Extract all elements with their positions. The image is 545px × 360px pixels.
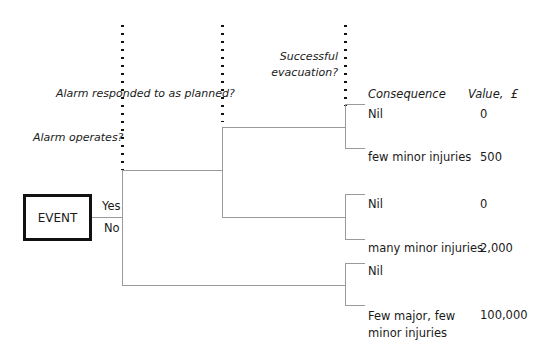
alarm-responded-no-branch bbox=[222, 217, 345, 218]
evacuation-node-1 bbox=[345, 104, 346, 149]
question-line-1: Successful bbox=[271, 49, 338, 65]
outcome-2-value: 500 bbox=[480, 150, 502, 164]
alarm-responded-yes-branch bbox=[222, 127, 345, 128]
outcome-2-tick bbox=[345, 148, 365, 149]
outcome-4-value: 2,000 bbox=[480, 241, 513, 255]
question-alarm-responded: Alarm responded to as planned? bbox=[56, 87, 235, 100]
header-consequence: Consequence bbox=[368, 87, 446, 101]
outcome-6-value: 100,000 bbox=[480, 308, 528, 322]
question-successful-evacuation: Successful evacuation? bbox=[271, 49, 338, 81]
outcome-4-consequence: many minor injuries bbox=[368, 241, 483, 255]
initiating-event-box: EVENT bbox=[23, 194, 92, 241]
header-value: Value, £ bbox=[468, 87, 518, 101]
outcome-1-consequence: Nil bbox=[368, 107, 383, 121]
event-stem-line bbox=[92, 217, 122, 218]
outcome-4-tick bbox=[345, 239, 365, 240]
outcome-6-consequence: Few major, few minor injuries bbox=[368, 308, 455, 342]
outcome-6-line-2: minor injuries bbox=[368, 325, 455, 342]
outcome-1-tick bbox=[345, 104, 365, 105]
outcome-3-tick bbox=[345, 194, 365, 195]
question-line-2: evacuation? bbox=[271, 65, 338, 81]
outcome-3-consequence: Nil bbox=[368, 197, 383, 211]
q3-column-divider bbox=[344, 22, 347, 106]
alarm-operates-node bbox=[122, 170, 123, 286]
branch-label-no: No bbox=[104, 221, 120, 235]
alarm-operates-yes-branch bbox=[122, 170, 222, 171]
q2-column-divider bbox=[221, 22, 224, 122]
evacuation-node-3 bbox=[345, 263, 346, 306]
outcome-6-line-1: Few major, few bbox=[368, 308, 455, 325]
branch-label-yes: Yes bbox=[102, 199, 121, 213]
outcome-2-consequence: few minor injuries bbox=[368, 150, 471, 164]
outcome-5-consequence: Nil bbox=[368, 264, 383, 278]
event-label: EVENT bbox=[38, 211, 78, 225]
alarm-responded-node bbox=[222, 127, 223, 218]
evacuation-node-2 bbox=[345, 194, 346, 239]
alarm-operates-no-branch bbox=[122, 285, 345, 286]
outcome-1-value: 0 bbox=[480, 107, 487, 121]
question-alarm-operates: Alarm operates? bbox=[33, 131, 123, 144]
outcome-3-value: 0 bbox=[480, 197, 487, 211]
outcome-5-tick bbox=[345, 263, 365, 264]
outcome-6-tick bbox=[345, 305, 365, 306]
